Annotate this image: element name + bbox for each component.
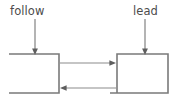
follow-waveform (9, 54, 59, 93)
follow-label: follow (10, 4, 45, 18)
timing-diagram-figure: follow lead (0, 0, 175, 103)
diagram-canvas: follow lead (0, 0, 175, 103)
lead-waveform (110, 54, 168, 93)
lead-label: lead (133, 4, 158, 18)
forward-relation-arrowhead (109, 60, 116, 66)
back-relation-arrowhead (60, 85, 67, 91)
